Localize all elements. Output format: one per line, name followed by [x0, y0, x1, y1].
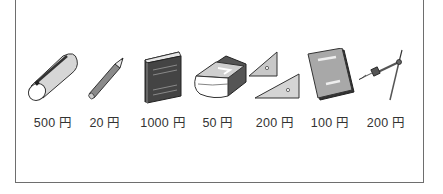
item-eraser: 50 円 [188, 48, 248, 131]
pencil-icon [75, 48, 135, 104]
pencil-case-icon [23, 48, 83, 104]
item-notebook: 100 円 [300, 48, 360, 131]
item-pencil: 20 円 [75, 48, 135, 131]
item-pencil-case: 500 円 [23, 48, 83, 131]
book-icon [133, 48, 193, 104]
triangle-ruler-icon [245, 48, 305, 104]
price-label: 1000 円 [133, 112, 193, 131]
item-triangle-rulers: 200 円 [245, 48, 305, 131]
price-label: 100 円 [300, 112, 360, 131]
price-label: 50 円 [188, 112, 248, 131]
price-label: 500 円 [23, 112, 83, 131]
eraser-icon [188, 48, 248, 104]
compass-icon [356, 48, 416, 104]
notebook-icon [300, 48, 360, 104]
item-compass: 200 円 [356, 48, 416, 131]
item-book: 1000 円 [133, 48, 193, 131]
price-label: 20 円 [75, 112, 135, 131]
price-label: 200 円 [245, 112, 305, 131]
price-label: 200 円 [356, 112, 416, 131]
